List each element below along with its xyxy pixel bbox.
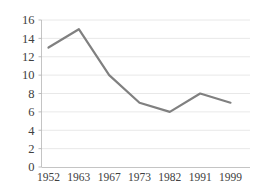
y-tick-label: 10: [22, 68, 35, 82]
x-tick-label: 1982: [158, 171, 181, 183]
y-tick-label: 8: [28, 87, 34, 101]
y-tick-label: 12: [22, 50, 35, 64]
gridlines-group: [42, 20, 251, 149]
x-tick-labels-group: 1952196319671973198219911999: [37, 171, 242, 183]
y-tick-label: 4: [28, 124, 35, 138]
y-tick-label: 2: [28, 142, 34, 156]
y-tick-label: 0: [28, 160, 34, 174]
x-tick-label: 1967: [98, 171, 121, 183]
x-tick-label: 1952: [37, 171, 60, 183]
y-tick-label: 14: [22, 32, 35, 46]
line-chart: 0246810121416 19521963196719731982199119…: [0, 0, 258, 193]
chart-plot-area: 0246810121416 19521963196719731982199119…: [0, 0, 258, 193]
x-tick-label: 1973: [128, 171, 151, 183]
series-line-0: [49, 29, 231, 112]
y-tick-label: 6: [28, 105, 34, 119]
y-tick-labels-group: 0246810121416: [22, 13, 35, 174]
x-tick-label: 1963: [67, 171, 90, 183]
x-tick-label: 1999: [219, 171, 242, 183]
data-series-group: [49, 29, 231, 112]
y-tick-label: 16: [22, 13, 35, 27]
x-tick-label: 1991: [189, 171, 212, 183]
